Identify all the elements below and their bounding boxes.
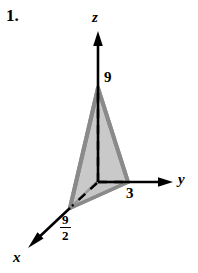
x-intercept-numerator: 9: [60, 213, 71, 226]
z-axis-arrowhead: [93, 31, 103, 46]
figure-container: 1. z y x 9 3 9 2: [0, 0, 198, 273]
y-axis-label: y: [178, 172, 185, 187]
y-intercept-label: 3: [126, 186, 134, 201]
coordinate-axes-diagram: [0, 0, 198, 273]
x-intercept-fraction-label: 9 2: [60, 213, 71, 242]
z-intercept-label: 9: [104, 70, 112, 85]
problem-number-label: 1.: [6, 7, 19, 24]
z-axis-label: z: [92, 10, 98, 25]
x-axis-label: x: [13, 250, 21, 265]
y-axis-arrowhead: [158, 177, 173, 187]
x-intercept-denominator: 2: [60, 229, 71, 242]
